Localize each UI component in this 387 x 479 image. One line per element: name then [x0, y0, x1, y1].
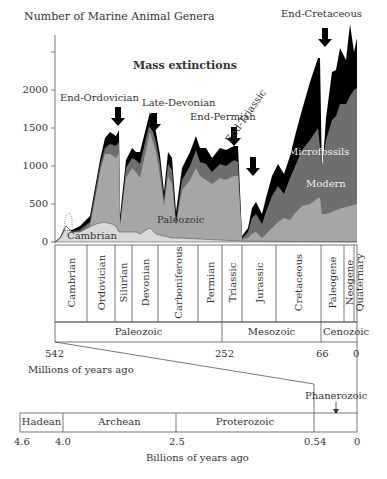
y-tick-2000: 2000 [18, 84, 48, 95]
period-cretaceous: Cretaceous [293, 243, 304, 323]
eon-phanerozoic: Phanerozoic [305, 390, 367, 401]
ga-tick-0: 0 [354, 436, 360, 447]
label-modern: Modern [306, 178, 346, 189]
label-late-devonian: Late-Devonian [142, 97, 216, 108]
y-tick-500: 500 [18, 198, 48, 209]
period-jurassic: Jurassic [254, 243, 265, 323]
y-tick-1500: 1500 [18, 122, 48, 133]
ga-tick-4.6: 4.6 [14, 436, 30, 447]
period-cambrian: Cambrian [66, 243, 77, 323]
period-permian: Permian [205, 243, 216, 323]
label-microfossils: Microfossils [288, 146, 349, 157]
ga-tick-2.5: 2.5 [169, 436, 185, 447]
period-carboniferous: Carboniferous [173, 243, 184, 323]
ma-axis-label: Millions of years ago [28, 364, 134, 375]
y-axis-label: Number of Marine Animal Genera [24, 10, 215, 23]
era-paleozoic: Paleozoic [55, 326, 222, 337]
ga-axis-label: Billions of years ago [146, 452, 249, 463]
ga-tick-4.0: 4.0 [55, 436, 71, 447]
ma-tick-252: 252 [215, 348, 234, 359]
period-triassic: Triassic [227, 243, 238, 323]
label-paleozoic-fauna: Paleozoic [157, 214, 204, 225]
label-cambrian-fauna: Cambrian [67, 230, 117, 241]
ma-tick-0: 0 [353, 348, 359, 359]
period-silurian: Silurian [118, 243, 129, 323]
period-paleogene: Paleogene [327, 243, 338, 323]
eon-hadean: Hadean [20, 416, 63, 427]
era-cenozoic: Cenozoic [321, 326, 371, 337]
era-mesozoic: Mesozoic [222, 326, 321, 337]
label-end-ordovician: End-Ordovician [60, 92, 139, 103]
eon-proterozoic: Proterozoic [176, 416, 314, 427]
chart-title: Mass extinctions [133, 59, 237, 72]
ma-tick-542: 542 [45, 348, 64, 359]
eon-archean: Archean [63, 416, 176, 427]
ma-tick-66: 66 [316, 348, 329, 359]
period-quaternary: Quaternary [354, 243, 365, 323]
y-tick-1000: 1000 [18, 160, 48, 171]
y-tick-0: 0 [18, 236, 48, 247]
ga-tick-0.54: 0.54 [304, 436, 326, 447]
label-end-cretaceous: End-Cretaceous [281, 8, 362, 19]
period-devonian: Devonian [140, 243, 151, 323]
period-ordovician: Ordovician [96, 243, 107, 323]
